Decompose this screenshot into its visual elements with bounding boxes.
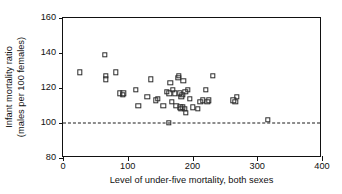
- data-point-marker: [187, 96, 192, 101]
- data-point-marker: [206, 98, 211, 103]
- data-point-marker: [135, 103, 140, 108]
- data-point-marker: [183, 110, 188, 115]
- y-axis-tick: [59, 18, 64, 19]
- data-point-marker: [210, 73, 215, 78]
- data-point-marker: [234, 94, 239, 99]
- x-axis-tick: [193, 156, 194, 161]
- data-point-marker: [155, 96, 160, 101]
- data-point-marker: [144, 94, 149, 99]
- data-point-marker: [161, 103, 166, 108]
- data-point-marker: [181, 78, 186, 83]
- plot-area: 80100120140160 0100200300400: [62, 17, 321, 157]
- data-point-marker: [77, 70, 82, 75]
- x-axis-title: Level of under-five mortality, both sexe…: [62, 176, 321, 185]
- data-point-marker: [185, 87, 190, 92]
- y-axis-tick-label: 120: [41, 83, 56, 92]
- data-point-marker: [113, 70, 118, 75]
- x-axis-tick-label: 0: [60, 162, 65, 171]
- data-point-marker: [233, 99, 238, 104]
- y-axis-tick: [59, 123, 64, 124]
- y-axis-tick: [59, 53, 64, 54]
- data-point-marker: [168, 80, 173, 85]
- x-axis-tick: [63, 156, 64, 161]
- x-axis-tick: [322, 156, 323, 161]
- reference-line-100: [63, 123, 320, 124]
- y-axis-tick-label: 80: [46, 153, 56, 162]
- x-axis-tick: [257, 156, 258, 161]
- data-point-marker: [121, 91, 126, 96]
- data-point-marker: [203, 87, 208, 92]
- scatter-chart-figure: 80100120140160 0100200300400 Level of un…: [0, 0, 342, 194]
- data-point-marker: [102, 52, 107, 57]
- x-axis-tick: [128, 156, 129, 161]
- y-axis-title: Infant mortality ratio (males per 100 fe…: [3, 17, 29, 157]
- y-axis-title-line1: Infant mortality ratio: [4, 46, 16, 128]
- data-point-marker: [133, 87, 138, 92]
- x-axis-tick-label: 400: [314, 162, 329, 171]
- y-axis-tick: [59, 88, 64, 89]
- y-axis-tick-label: 160: [41, 13, 56, 22]
- y-axis-tick-label: 100: [41, 118, 56, 127]
- data-point-marker: [103, 77, 108, 82]
- data-point-marker: [195, 106, 200, 111]
- y-axis-title-line2: (males per 100 females): [16, 37, 28, 137]
- x-axis-tick-label: 200: [185, 162, 200, 171]
- data-point-marker: [148, 77, 153, 82]
- y-axis-tick-label: 140: [41, 48, 56, 57]
- x-axis-tick-label: 100: [120, 162, 135, 171]
- data-point-marker: [265, 117, 270, 122]
- x-axis-tick-label: 300: [250, 162, 265, 171]
